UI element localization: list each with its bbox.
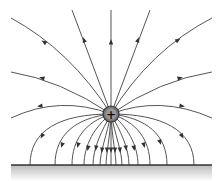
upper-field-line: [111, 18, 212, 114]
upper-field-line: [11, 105, 111, 118]
arrowhead-icon: [109, 39, 113, 45]
arrowhead-icon: [118, 147, 123, 153]
upper-field-line: [11, 18, 111, 114]
upper-field-line: [111, 105, 212, 118]
upper-field-lines: [11, 10, 212, 118]
upper-field-line: [111, 72, 212, 114]
arrowhead-icon: [93, 145, 98, 151]
arrowhead-icon: [100, 147, 105, 153]
arrowhead-icon: [123, 145, 128, 151]
arrowhead-icon: [113, 147, 118, 153]
field-line-diagram: +: [0, 0, 220, 181]
arrowhead-icon: [105, 147, 110, 153]
upper-field-line: [111, 10, 150, 114]
upper-field-line: [72, 10, 111, 114]
point-charge: +: [103, 106, 119, 122]
arrowhead-icon: [109, 148, 113, 154]
charge-sign: +: [106, 108, 116, 122]
ground-shading: [11, 165, 212, 181]
